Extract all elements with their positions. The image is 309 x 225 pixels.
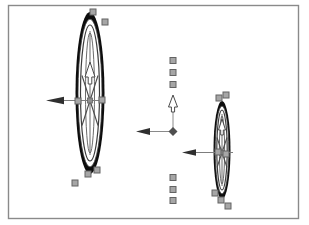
selection-handle-left_wheel[interactable] bbox=[75, 98, 81, 104]
selection-handle-right_wheel[interactable] bbox=[212, 190, 218, 196]
left-wheel-hub[interactable] bbox=[88, 98, 93, 103]
selection-handle-right_wheel[interactable] bbox=[225, 203, 231, 209]
selection-handle-right_wheel[interactable] bbox=[223, 151, 229, 157]
selection-handle-left_wheel[interactable] bbox=[102, 19, 108, 25]
canvas-frame bbox=[9, 6, 299, 219]
selection-handle-column_top[interactable] bbox=[170, 58, 176, 64]
gizmo-origin-diamond[interactable] bbox=[169, 127, 178, 136]
selection-handle-column_bottom[interactable] bbox=[170, 198, 176, 204]
app-workspace bbox=[0, 0, 309, 225]
left-wheel-group[interactable] bbox=[46, 12, 105, 174]
selection-handle-column_bottom[interactable] bbox=[170, 187, 176, 193]
selection-handle-left_wheel[interactable] bbox=[99, 97, 105, 103]
selection-handle-right_wheel[interactable] bbox=[216, 95, 222, 101]
drawing-canvas[interactable] bbox=[0, 0, 309, 225]
selection-handle-column_bottom[interactable] bbox=[170, 175, 176, 181]
selection-handle-left_wheel[interactable] bbox=[72, 180, 78, 186]
right-wheel-group[interactable] bbox=[182, 101, 233, 199]
selection-handle-column_top[interactable] bbox=[170, 82, 176, 88]
selection-handle-column_top[interactable] bbox=[170, 70, 176, 76]
selection-handle-right_wheel[interactable] bbox=[215, 149, 221, 155]
origin-gizmo-group[interactable] bbox=[136, 95, 178, 136]
gizmo-left-arrow-head-icon[interactable] bbox=[136, 128, 150, 135]
selection-handle-left_wheel[interactable] bbox=[94, 167, 100, 173]
left-wheel-force-arrow-head-icon[interactable] bbox=[46, 97, 64, 105]
right-wheel-force-arrow-head-icon[interactable] bbox=[182, 149, 196, 155]
gizmo-up-arrow-icon[interactable] bbox=[169, 95, 178, 112]
selection-handle-right_wheel[interactable] bbox=[223, 92, 229, 98]
selection-handle-left_wheel[interactable] bbox=[85, 171, 91, 177]
selection-handle-left_wheel[interactable] bbox=[90, 9, 96, 15]
selection-handle-right_wheel[interactable] bbox=[218, 197, 224, 203]
